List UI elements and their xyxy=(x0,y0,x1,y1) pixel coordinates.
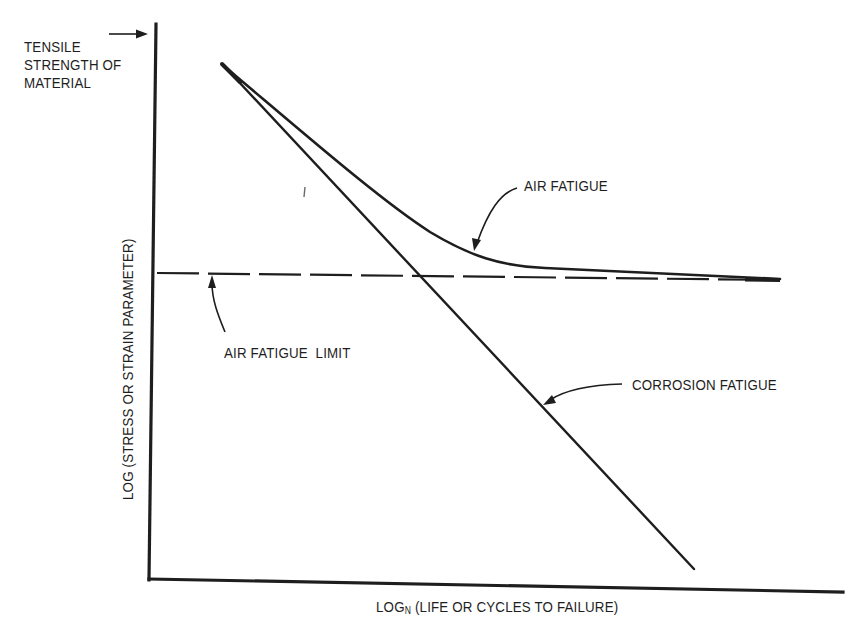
corrosion-fatigue-label: CORROSION FATIGUE xyxy=(632,375,777,395)
air-fatigue-pointer-icon xyxy=(472,188,517,251)
y-axis-line xyxy=(149,24,156,580)
y-axis-label: LOG (STRESS OR STRAIN PARAMETER) xyxy=(118,238,138,500)
tensile-label-line-1: TENSILE xyxy=(24,38,121,56)
x-axis-label: LOGN (LIFE OR CYCLES TO FAILURE) xyxy=(376,597,618,621)
air-fatigue-label: AIR FATIGUE xyxy=(524,176,608,196)
air-fatigue-limit-label: AIR FATIGUE LIMIT xyxy=(224,343,351,363)
x-axis-label-suffix: (LIFE OR CYCLES TO FAILURE) xyxy=(411,598,618,615)
fatigue-diagram: TENSILE STRENGTH OF MATERIAL LOG (STRESS… xyxy=(0,0,854,626)
tensile-label-line-2: STRENGTH OF xyxy=(24,56,121,74)
corrosion-fatigue-line xyxy=(224,66,694,569)
tensile-label-line-3: MATERIAL xyxy=(24,74,121,92)
stray-mark xyxy=(304,187,305,197)
corrosion-fatigue-pointer-icon xyxy=(543,384,622,405)
x-axis-line xyxy=(149,579,843,592)
x-axis-label-prefix: LOG xyxy=(376,598,405,615)
air-fatigue-curve xyxy=(224,66,780,279)
tensile-strength-label: TENSILE STRENGTH OF MATERIAL xyxy=(24,38,121,92)
air-fatigue-limit-pointer-icon xyxy=(208,275,225,332)
